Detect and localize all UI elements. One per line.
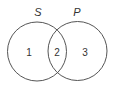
set-p-label: P [73, 6, 81, 18]
region-2-label: 2 [54, 47, 60, 58]
venn-diagram: S P 1 2 3 [0, 0, 115, 91]
region-3-label: 3 [82, 47, 88, 58]
set-s-label: S [34, 6, 42, 18]
region-1-label: 1 [26, 47, 32, 58]
